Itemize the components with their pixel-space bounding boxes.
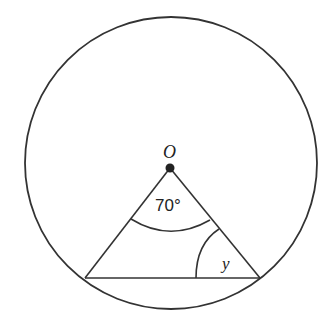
central-angle-label: 70° <box>155 196 181 215</box>
geometry-diagram: O 70° y <box>0 0 329 327</box>
base-angle-label: y <box>220 254 230 273</box>
circle <box>25 17 317 309</box>
center-point <box>166 164 175 173</box>
radius-right <box>170 168 260 278</box>
radius-left <box>85 168 170 278</box>
center-label: O <box>163 142 176 162</box>
central-angle-arc <box>131 219 210 231</box>
base-angle-arc <box>196 229 219 278</box>
